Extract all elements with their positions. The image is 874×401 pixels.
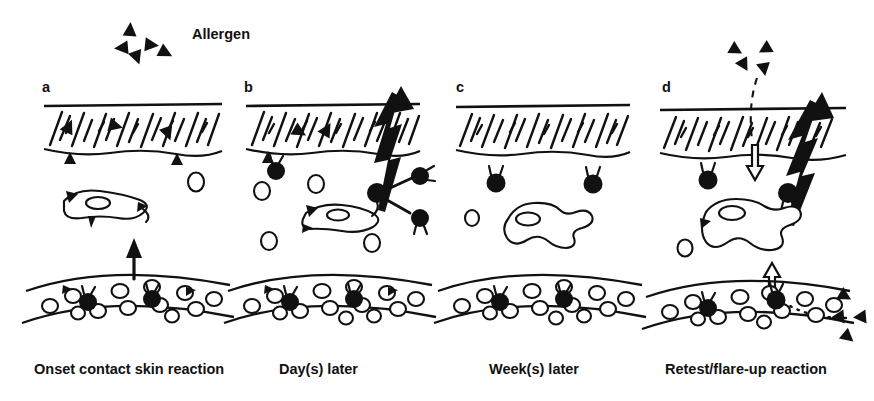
free-cell (188, 173, 204, 192)
blood-vessel (434, 275, 646, 325)
free-cell (364, 234, 380, 252)
blood-vessel (22, 275, 234, 323)
free-cell (261, 232, 277, 250)
epidermal-border (246, 149, 420, 156)
stratum-corneum-hatching (460, 114, 628, 148)
t-cell (699, 163, 718, 190)
panel-d: d (642, 40, 867, 377)
allergen-triangle-icon (727, 41, 745, 60)
allergen-legend: Allergen (113, 22, 250, 67)
allergen-triangle-icon (756, 62, 772, 77)
migration-arrow-up (126, 238, 142, 279)
panel-letter-b: b (244, 79, 253, 95)
t-cell (281, 286, 299, 311)
panel-caption-a: Onset contact skin reaction (34, 361, 224, 377)
allergen-triangle-icon (157, 44, 176, 63)
panel-letter-d: d (662, 79, 671, 95)
stratum-corneum-hatching (50, 112, 219, 147)
panel-a: a (22, 79, 234, 377)
langerhans-cell (302, 202, 378, 233)
allergen-triangle-icon (144, 37, 159, 52)
allergen-triangle-icon (839, 328, 858, 347)
epidermal-border (456, 150, 630, 157)
t-cell (584, 167, 603, 194)
free-cell (308, 175, 324, 193)
skin-surface-line (44, 104, 222, 106)
blood-vessel (642, 281, 854, 329)
langerhans-cell (64, 190, 148, 228)
blood-vessel (224, 275, 436, 325)
t-cell (411, 209, 429, 234)
panel-letter-a: a (42, 79, 51, 95)
free-cell (678, 240, 693, 257)
t-cell (487, 166, 506, 193)
allergen-triangle-icon (123, 22, 138, 37)
t-cell (411, 166, 435, 185)
skin-surface-line (456, 105, 630, 107)
panel-caption-b: Day(s) later (279, 361, 358, 377)
allergen-triangle-icon (128, 49, 146, 67)
allergen-label: Allergen (192, 26, 250, 42)
allergen-triangle-icon (113, 40, 128, 55)
panel-b: b (224, 79, 436, 377)
hollow-arrow-epidermis (747, 145, 763, 180)
t-cell (699, 292, 717, 317)
panel-letter-c: c (456, 79, 464, 95)
t-cell (79, 286, 97, 311)
free-cell (465, 210, 479, 226)
allergen-triangle-icon (852, 310, 866, 325)
allergen-triangle-icon (735, 56, 754, 74)
langerhans-cell (700, 199, 801, 250)
panel-caption-c: Week(s) later (489, 361, 579, 377)
free-cell (254, 182, 270, 200)
panel-c: c (434, 79, 646, 377)
panel-caption-d: Retest/flare-up reaction (665, 361, 827, 377)
t-cell (491, 286, 509, 311)
contact-allergy-diagram: Allergen a (0, 0, 874, 401)
allergen-triangle-icon (755, 40, 773, 59)
langerhans-cell (504, 203, 592, 248)
